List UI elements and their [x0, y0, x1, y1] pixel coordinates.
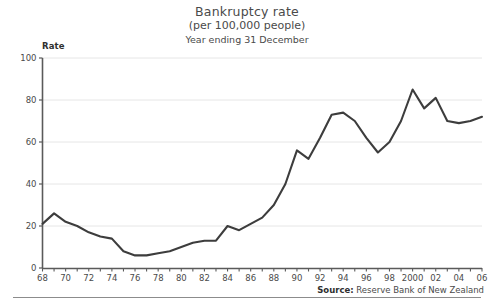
x-tick-label: 70 [60, 273, 71, 283]
x-tick-label: 02 [430, 273, 441, 283]
footer-divider [13, 297, 481, 298]
x-tick-label: 86 [245, 273, 256, 283]
source-text: Reserve Bank of New Zealand [356, 285, 484, 295]
x-tick-label: 80 [176, 273, 187, 283]
x-tick-label: 68 [37, 273, 48, 283]
x-tick-label: 04 [453, 273, 464, 283]
y-tick-label: 80 [26, 95, 37, 105]
y-tick-label: 20 [26, 221, 37, 231]
x-tick-label: 94 [338, 273, 349, 283]
x-tick-label: 98 [384, 273, 395, 283]
chart-figure: Bankruptcy rate (per 100,000 people) Yea… [0, 0, 494, 303]
plot-area: 020406080100 687072747678808284868890929… [0, 0, 494, 303]
x-tick-labels-group: 6870727476788082848688909294969820000204… [37, 273, 487, 283]
x-tick-label: 92 [315, 273, 326, 283]
x-tick-label: 82 [199, 273, 210, 283]
source-label: Source: [317, 285, 353, 295]
x-tick-label: 90 [292, 273, 303, 283]
y-tick-label: 60 [26, 137, 37, 147]
x-tick-label: 76 [130, 273, 141, 283]
y-tick-label: 40 [26, 179, 37, 189]
x-tick-label: 2000 [402, 273, 424, 283]
data-series-line [43, 90, 483, 256]
y-tick-label: 0 [31, 263, 36, 273]
x-tick-label: 96 [361, 273, 372, 283]
x-tick-label: 84 [222, 273, 233, 283]
x-tick-label: 78 [153, 273, 164, 283]
source-note: Source: Reserve Bank of New Zealand [317, 285, 484, 295]
y-tick-label: 100 [20, 53, 36, 63]
x-tick-label: 72 [83, 273, 94, 283]
x-tick-label: 06 [477, 273, 488, 283]
y-tick-labels-group: 020406080100 [20, 53, 36, 273]
x-tick-label: 74 [106, 273, 117, 283]
line-chart-svg: 020406080100 687072747678808284868890929… [0, 0, 494, 303]
x-tick-label: 88 [268, 273, 279, 283]
